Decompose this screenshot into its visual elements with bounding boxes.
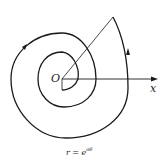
caption-base: r = e: [66, 148, 86, 157]
spiral-curve: [11, 17, 128, 138]
caption-exponent: aθ: [86, 146, 92, 152]
origin-label: O: [51, 72, 60, 85]
caption: r = eaθ: [66, 146, 92, 157]
x-axis-arrow-icon: [151, 77, 158, 82]
direction-arrow-icon: [126, 48, 130, 55]
x-axis-label: x: [150, 82, 156, 95]
spiral-diagram: [0, 0, 168, 161]
